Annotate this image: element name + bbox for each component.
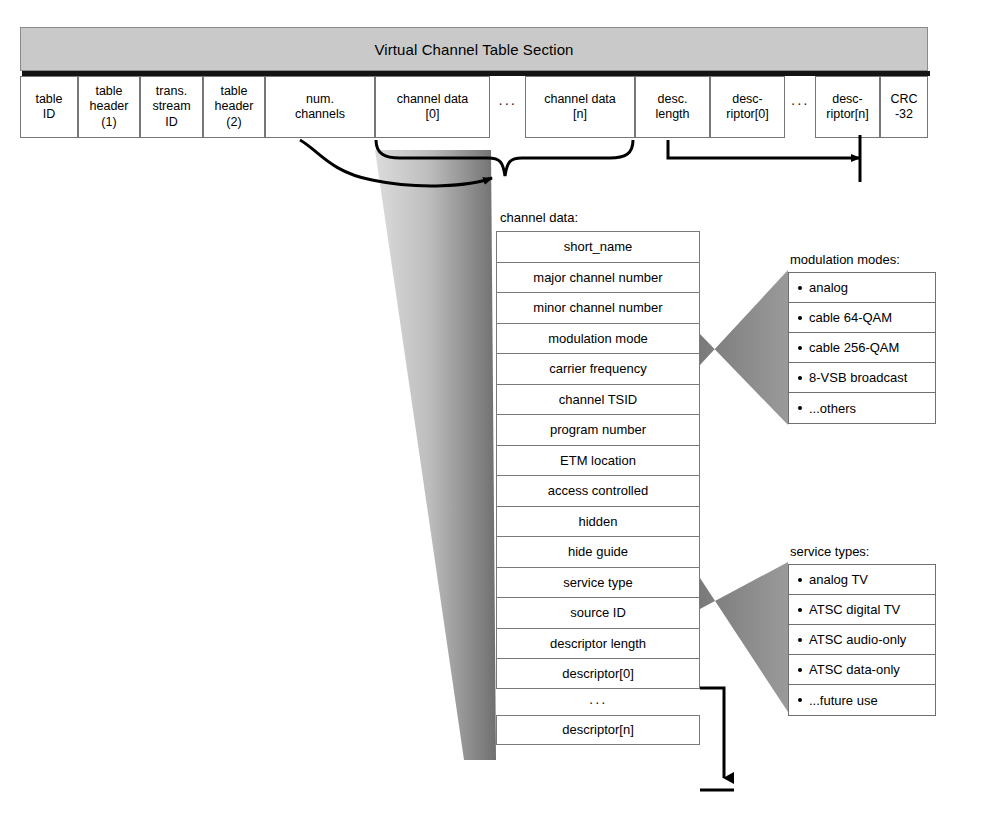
field-desc-length: desc.length [635, 76, 710, 138]
bullet-icon [798, 698, 802, 702]
modulation-mode-item: 8-VSB broadcast [789, 363, 935, 393]
channel-data-row: major channel number [496, 262, 700, 293]
channel-data-table: short_namemajor channel numberminor chan… [496, 231, 700, 745]
channel-data-row: source ID [496, 597, 700, 628]
modulation-mode-item-label: cable 64-QAM [809, 310, 892, 325]
field-channel-data-n: channel data[n] [525, 76, 635, 138]
service-type-item-label: analog TV [809, 572, 868, 587]
channel-data-row: program number [496, 414, 700, 445]
field-num-channels: num.channels [265, 76, 375, 138]
service-type-item-label: ATSC digital TV [809, 602, 900, 617]
modulation-modes-block: modulation modes: analogcable 64-QAMcabl… [788, 252, 936, 424]
bullet-icon [798, 406, 802, 410]
service-type-item-label: ATSC data-only [809, 662, 900, 677]
num-channels-connector [300, 140, 492, 186]
modulation-mode-item-label: cable 256-QAM [809, 340, 899, 355]
service-types-caption: service types: [788, 544, 936, 559]
channel-data-row: hidden [496, 506, 700, 537]
section-header-bar: Virtual Channel Table Section [20, 27, 928, 71]
channel-data-row: ETM location [496, 445, 700, 476]
channel-data-brace [376, 140, 633, 176]
modulation-mode-item-label: ...others [809, 401, 856, 416]
service-type-cone [700, 562, 788, 712]
channel-data-cone [375, 150, 496, 760]
modulation-modes-caption: modulation modes: [788, 252, 936, 267]
field-table-header-1: tableheader(1) [78, 76, 140, 138]
modulation-modes-box: analogcable 64-QAMcable 256-QAM8-VSB bro… [788, 272, 936, 424]
bullet-icon [798, 286, 802, 290]
modulation-mode-item-label: analog [809, 280, 848, 295]
field-channel-data-0: channel data[0] [375, 76, 490, 138]
channel-data-row: descriptor length [496, 628, 700, 659]
channel-data-row: short_name [496, 231, 700, 262]
channel-data-row: hide guide [496, 536, 700, 567]
service-types-box: analog TVATSC digital TVATSC audio-onlyA… [788, 564, 936, 716]
field-table-header-2: tableheader(2) [203, 76, 265, 138]
service-type-item-label: ...future use [809, 693, 878, 708]
channel-data-row: carrier frequency [496, 353, 700, 384]
service-type-item-label: ATSC audio-only [809, 632, 906, 647]
desc-length-span-arrow [668, 140, 860, 158]
channel-data-row: minor channel number [496, 292, 700, 323]
section-title: Virtual Channel Table Section [374, 41, 573, 58]
service-type-item: analog TV [789, 565, 935, 595]
service-type-item: ATSC data-only [789, 655, 935, 685]
field-trans-stream-id: trans.streamID [140, 76, 203, 138]
bullet-icon [798, 578, 802, 582]
channel-data-row: service type [496, 567, 700, 598]
channel-data-ellipsis: ··· [496, 689, 700, 715]
diagram-canvas: Virtual Channel Table Section tableIDtab… [0, 0, 988, 820]
bullet-icon [798, 376, 802, 380]
field-descriptor-n: desc-riptor[n] [815, 76, 880, 138]
field-ellipsis-1: ··· [490, 76, 525, 138]
field-descriptor-0: desc-riptor[0] [710, 76, 785, 138]
service-type-item: ATSC digital TV [789, 595, 935, 625]
field-table-id: tableID [20, 76, 78, 138]
modulation-mode-item: cable 256-QAM [789, 333, 935, 363]
modulation-mode-cone [700, 270, 788, 425]
bullet-icon [798, 638, 802, 642]
service-types-block: service types: analog TVATSC digital TVA… [788, 544, 936, 716]
bullet-icon [798, 316, 802, 320]
field-crc-32: CRC-32 [880, 76, 928, 138]
service-type-item: ...future use [789, 685, 935, 715]
bullet-icon [798, 668, 802, 672]
channel-data-row: access controlled [496, 475, 700, 506]
channel-data-caption: channel data: [500, 210, 578, 225]
channel-data-row: channel TSID [496, 384, 700, 415]
bullet-icon [798, 608, 802, 612]
cd-descriptor-span-arrow [700, 688, 724, 778]
modulation-mode-item: cable 64-QAM [789, 303, 935, 333]
bullet-icon [798, 346, 802, 350]
channel-data-row-descriptor-n: descriptor[n] [496, 715, 700, 746]
modulation-mode-item: ...others [789, 393, 935, 423]
channel-data-row: descriptor[0] [496, 658, 700, 689]
modulation-mode-item-label: 8-VSB broadcast [809, 370, 907, 385]
channel-data-row: modulation mode [496, 323, 700, 354]
modulation-mode-item: analog [789, 273, 935, 303]
field-ellipsis-2: ··· [785, 76, 815, 138]
service-type-item: ATSC audio-only [789, 625, 935, 655]
